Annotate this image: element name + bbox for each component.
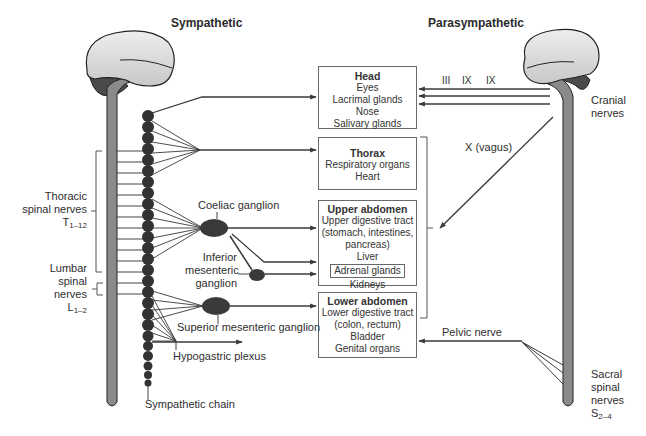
sacral-line2: spinal xyxy=(591,381,624,394)
upper-abdomen-box: Upper abdomen Upper digestive tract (sto… xyxy=(318,200,417,286)
lumbar-label-line3: nerves xyxy=(20,288,87,301)
vagus-bracket xyxy=(420,137,433,318)
organ-item: Kidneys xyxy=(319,279,416,291)
cranial-line1: Cranial xyxy=(591,94,626,107)
parasympathetic-title: Parasympathetic xyxy=(428,16,524,30)
organ-item: pancreas) xyxy=(319,239,416,251)
thoracic-label-line2: spinal nerves xyxy=(20,203,87,216)
lumbar-label: Lumbar spinal nerves L1–2 xyxy=(20,262,87,317)
superior-mesenteric-ganglion xyxy=(202,297,230,315)
organ-item: Salivary glands xyxy=(319,118,416,130)
lower-abdomen-box: Lower abdomen Lower digestive tract (col… xyxy=(318,292,417,358)
organ-item: Respiratory organs xyxy=(319,159,416,171)
sympathetic-title: Sympathetic xyxy=(171,16,242,30)
head-box: Head Eyes Lacrimal glands Nose Salivary … xyxy=(318,66,417,129)
right-spinal-cord xyxy=(548,72,590,406)
organ-item: Nose xyxy=(319,106,416,118)
coeliac-ganglion-label: Coeliac ganglion xyxy=(198,199,279,212)
organ-item: Lacrimal glands xyxy=(319,94,416,106)
cranial-nerve-III-label: III xyxy=(442,74,450,87)
superior-mesenteric-pathway xyxy=(152,291,316,320)
thoracic-label-line1: Thoracic xyxy=(20,190,87,203)
thoracic-label: Thoracic spinal nerves T1–12 xyxy=(20,190,87,232)
organ-item: (colon, rectum) xyxy=(319,319,416,331)
hypogastric-plexus-label: Hypogastric plexus xyxy=(173,350,266,363)
cranial-line2: nerves xyxy=(591,107,626,120)
organ-item: (stomach, intestines, xyxy=(319,227,416,239)
coeliac-ganglion xyxy=(200,219,228,237)
inferior-line1: Inferior xyxy=(185,251,237,264)
head-box-title: Head xyxy=(319,70,416,82)
inferior-mesenteric-label: Inferior mesenteric ganglion xyxy=(185,251,237,290)
vagus-label: X (vagus) xyxy=(465,141,512,154)
lumbar-segment: L1–2 xyxy=(20,301,87,317)
sympathetic-thorax-pathway xyxy=(152,121,316,175)
lower-abdomen-box-title: Lower abdomen xyxy=(319,295,416,307)
thorax-box-title: Thorax xyxy=(319,147,416,159)
cranial-nerve-pathways xyxy=(419,89,550,104)
sympathetic-head-pathway xyxy=(152,97,316,113)
thoracic-subscript: 1–12 xyxy=(69,221,87,230)
organ-item: Lower digestive tract xyxy=(319,307,416,319)
sacral-subscript: 2–4 xyxy=(598,412,611,421)
upper-abdomen-box-title: Upper abdomen xyxy=(319,203,416,215)
lumbar-subscript: 1–2 xyxy=(74,306,87,315)
sacral-line1: Sacral xyxy=(591,368,624,381)
organ-item: Heart xyxy=(319,171,416,183)
superior-mesenteric-label: Superior mesenteric ganglion xyxy=(177,321,320,334)
pelvic-nerve-pathway xyxy=(419,341,563,384)
adrenal-glands-highlight: Adrenal glands xyxy=(330,264,405,278)
cranial-nerves-label: Cranial nerves xyxy=(591,94,626,120)
inferior-line3: ganglion xyxy=(185,277,237,290)
sacral-label: Sacral spinal nerves S2–4 xyxy=(591,368,624,423)
inferior-line2: mesenteric xyxy=(185,264,237,277)
spinal-nerve-rami xyxy=(117,151,146,294)
cranial-nerve-IX-label-b: IX xyxy=(486,74,495,87)
thoracic-segment: T1–12 xyxy=(20,216,87,232)
sacral-line3: nerves xyxy=(591,394,624,407)
thorax-box: Thorax Respiratory organs Heart xyxy=(318,137,417,190)
organ-item: Upper digestive tract xyxy=(319,215,416,227)
organ-item: Liver xyxy=(319,251,416,263)
pelvic-nerve-label: Pelvic nerve xyxy=(442,326,502,339)
left-brain-icon xyxy=(86,31,174,86)
cranial-nerve-IX-label-a: IX xyxy=(462,74,471,87)
inferior-mesenteric-ganglion xyxy=(249,269,265,281)
sacral-segment: S2–4 xyxy=(591,407,624,423)
sympathetic-chain-label: Sympathetic chain xyxy=(145,398,235,411)
lumbar-label-line2: spinal xyxy=(20,275,87,288)
vagus-nerve xyxy=(440,117,553,228)
lumbar-bracket xyxy=(92,283,103,295)
organ-item: Eyes xyxy=(319,82,416,94)
lumbar-label-line1: Lumbar xyxy=(20,262,87,275)
organ-item: Bladder xyxy=(319,331,416,343)
organ-item: Genital organs xyxy=(319,343,416,355)
right-brain-icon xyxy=(524,29,599,83)
thoracic-bracket xyxy=(91,151,102,272)
